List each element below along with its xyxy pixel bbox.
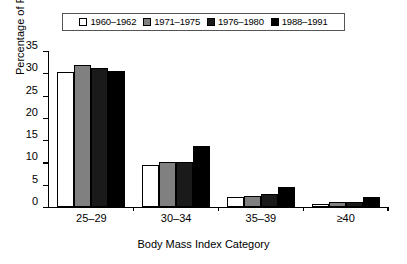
- bar-group: [134, 51, 219, 207]
- y-axis-tick-label: 5: [8, 174, 38, 185]
- bar: [176, 162, 193, 207]
- bar-group: [219, 51, 304, 207]
- y-axis-tick-label: 0: [8, 196, 38, 207]
- x-axis-tick: [303, 207, 304, 211]
- x-axis-tick: [387, 207, 388, 211]
- bar: [57, 72, 74, 207]
- x-axis-tick: [218, 207, 219, 211]
- plot-area: Percentage of Persons: [48, 51, 388, 207]
- y-axis-tick: [43, 207, 48, 208]
- legend-item-label: 1976–1980: [218, 17, 264, 27]
- bar: [193, 146, 210, 208]
- bar: [363, 197, 380, 207]
- legend-item-label: 1960–1962: [90, 17, 136, 27]
- legend-item: 1988–1991: [271, 17, 328, 27]
- bar: [159, 162, 176, 207]
- legend-item-label: 1988–1991: [282, 17, 328, 27]
- bar: [244, 196, 261, 207]
- chart-legend: 1960–19621971–19751976–19801988–1991: [62, 13, 345, 31]
- legend-swatch-icon: [271, 18, 279, 26]
- x-axis-tick-labels: 25–2930–3435–39≥40: [49, 213, 388, 229]
- x-axis-tick-label: ≥40: [303, 213, 388, 229]
- bar-chart: 1960–19621971–19751976–19801988–1991 Per…: [0, 0, 407, 264]
- bar: [108, 71, 125, 207]
- bar: [261, 194, 278, 207]
- legend-item: 1960–1962: [79, 17, 136, 27]
- y-axis-tick: [43, 73, 48, 74]
- y-axis-tick-label: 10: [8, 151, 38, 162]
- y-axis-tick-label: 15: [8, 129, 38, 140]
- legend-item-label: 1971–1975: [154, 17, 200, 27]
- bar: [74, 65, 91, 207]
- x-axis-tick-label: 30–34: [134, 213, 219, 229]
- y-axis-tick-label: 35: [8, 40, 38, 51]
- y-axis-tick: [43, 140, 48, 141]
- bar: [227, 197, 244, 207]
- y-axis-tick: [43, 185, 48, 186]
- y-axis-tick-label: 20: [8, 107, 38, 118]
- y-axis-tick: [43, 118, 48, 119]
- x-axis-tick: [133, 207, 134, 211]
- y-axis-tick-label: 25: [8, 85, 38, 96]
- legend-swatch-icon: [79, 18, 87, 26]
- bar: [329, 202, 346, 207]
- bar-group: [49, 51, 134, 207]
- legend-item: 1976–1980: [207, 17, 264, 27]
- bar-group: [303, 51, 388, 207]
- y-axis-tick: [43, 96, 48, 97]
- x-axis-tick-label: 25–29: [49, 213, 134, 229]
- bar: [312, 204, 329, 207]
- bar: [142, 165, 159, 207]
- y-axis-tick-labels: 05101520253035: [8, 45, 38, 215]
- bar: [278, 187, 295, 207]
- legend-swatch-icon: [207, 18, 215, 26]
- bar: [91, 68, 108, 207]
- bar: [346, 202, 363, 207]
- x-axis-tick-label: 35–39: [219, 213, 304, 229]
- y-axis-tick-label: 30: [8, 62, 38, 73]
- legend-item: 1971–1975: [143, 17, 200, 27]
- bar-groups: [49, 51, 388, 207]
- x-axis-title: Body Mass Index Category: [0, 238, 407, 250]
- y-axis-tick: [43, 162, 48, 163]
- y-axis-tick: [43, 51, 48, 52]
- legend-swatch-icon: [143, 18, 151, 26]
